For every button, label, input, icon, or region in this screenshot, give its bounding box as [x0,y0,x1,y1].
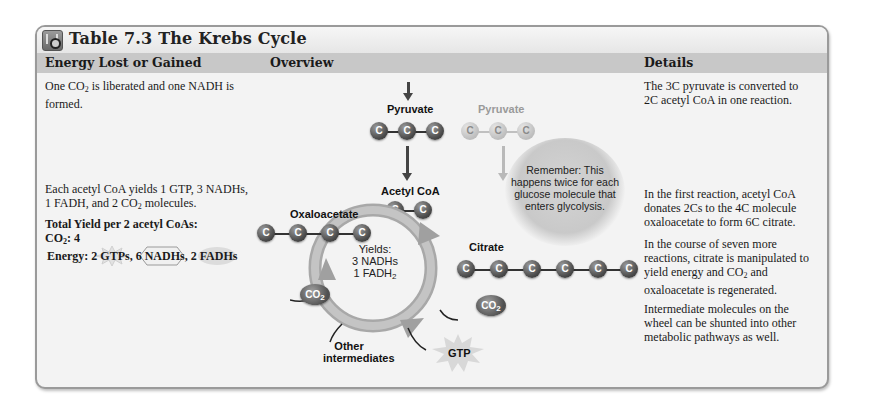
carbon-atom-faded: C [489,122,507,140]
total-energy: Energy: 2 GTPs, 6 NADHs, 2 FADHs [47,249,260,263]
co2-molecule-left: CO2 [300,284,330,305]
other-intermediates-label: Other intermediates [323,340,375,364]
row2-energy-text: Each acetyl CoA yields 1 GTP, 3 NADHs, 1… [45,182,260,214]
column-header-overview: Overview [270,55,333,70]
carbon-atom: C [620,260,638,278]
pyruvate-label: Pyruvate [387,103,433,115]
table-title-bar: Table 7.3 The Krebs Cycle [37,27,827,53]
row2-details-3: Intermediate molecules on the wheel can … [644,302,819,344]
carbon-atom: C [398,122,416,140]
citrate-label: Citrate [469,241,504,253]
gtp-label: GTP [448,347,471,359]
row2-details-1: In the first reaction, acetyl CoA donate… [644,187,819,229]
table-title: Table 7.3 The Krebs Cycle [69,29,307,48]
carbon-atom-faded: C [461,122,479,140]
total-yield-heading: Total Yield per 2 acetyl CoAs: [45,217,260,231]
carbon-atom: C [257,224,275,242]
bond [266,233,362,235]
media-table-icon[interactable] [42,30,63,51]
row1-details-text: The 3C pyruvate is converted to 2C acety… [644,79,814,107]
yields-text: Yields: 3 NADHs 1 FADH2 [345,243,405,283]
row1-energy-text: One CO2 is liberated and one NADH is for… [45,79,245,111]
carbon-atom: C [370,122,388,140]
carbon-atom: C [353,224,371,242]
remember-callout: Remember: This happens twice for each gl… [505,138,625,246]
carbon-atom: C [490,260,508,278]
arrow-down-icon [406,146,409,174]
carbon-atom: C [289,224,307,242]
carbon-atom: C [321,224,339,242]
table-header-row: Energy Lost or Gained Overview Details [37,53,827,73]
row2-details-2: In the course of seven more reactions, c… [644,237,819,297]
column-header-energy: Energy Lost or Gained [45,55,201,70]
carbon-atom: C [589,260,607,278]
total-yield-block: Total Yield per 2 acetyl CoAs: CO2: 4 En… [45,217,260,263]
column-header-details: Details [644,55,693,70]
carbon-atom: C [523,260,541,278]
oxaloacetate-label: Oxaloacetate [290,208,358,220]
carbon-atom: C [556,260,574,278]
pyruvate-faded-label: Pyruvate [478,103,524,115]
carbon-atom-faded: C [517,122,535,140]
co2-molecule-right: CO2 [476,295,506,316]
input-arrow-icon [407,82,410,94]
carbon-atom: C [457,260,475,278]
acetyl-coa-label: Acetyl CoA [381,185,440,197]
carbon-atom: C [426,122,444,140]
